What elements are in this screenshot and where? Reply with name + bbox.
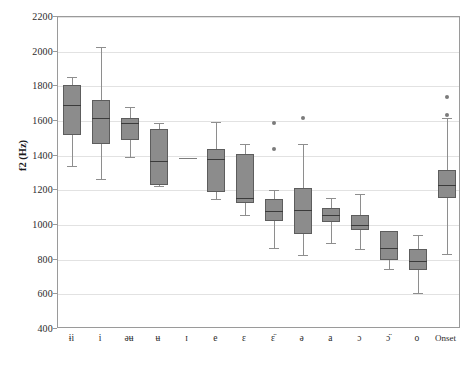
whisker-lower: [72, 135, 73, 166]
median-line: [63, 105, 81, 106]
whisker-cap-lower: [211, 199, 221, 200]
box-iqr: [236, 154, 254, 203]
x-tick-label: ʉ: [155, 333, 160, 343]
whisker-cap-upper: [355, 194, 365, 195]
whisker-upper: [130, 107, 131, 117]
box-iqr: [63, 85, 81, 134]
whisker-cap-lower: [125, 157, 135, 158]
plot-area: [57, 16, 460, 328]
x-tick-label: əʉ: [124, 333, 133, 343]
whisker-upper: [274, 190, 275, 199]
x-tick-label: ɔ: [357, 333, 361, 343]
boxplot-figure: f2 (Hz) 22002000180016001400120010008006…: [0, 0, 467, 365]
whisker-upper: [245, 144, 246, 154]
whisker-cap-upper: [442, 118, 452, 119]
whisker-cap-lower: [355, 249, 365, 250]
whisker-lower: [274, 221, 275, 249]
whisker-lower: [101, 144, 102, 180]
whisker-upper: [72, 77, 73, 86]
outlier-point: [301, 116, 305, 120]
whisker-upper: [360, 194, 361, 216]
whisker-cap-lower: [442, 254, 452, 255]
box-iqr: [92, 100, 110, 143]
outlier-point: [445, 113, 449, 117]
median-line: [294, 210, 312, 211]
whisker-lower: [418, 270, 419, 293]
whisker-cap-upper: [67, 77, 77, 78]
whisker-lower: [130, 140, 131, 156]
outlier-point: [272, 147, 276, 151]
median-line: [92, 118, 110, 119]
x-tick-label: ɪ: [185, 333, 188, 343]
box-iqr: [207, 149, 225, 192]
y-tick-mark: [53, 328, 57, 329]
x-axis-tick-labels: ɨiiəʉʉɪeɛɛ̈əaɔɔ̈oOnset: [57, 333, 460, 353]
whisker-lower: [360, 230, 361, 249]
x-tick-label: e: [213, 333, 217, 343]
box-iqr: [150, 129, 168, 185]
x-tick-label: i: [99, 333, 102, 343]
median-line: [207, 159, 225, 160]
x-tick-label: ɨi: [69, 333, 74, 343]
x-tick-label: a: [328, 333, 332, 343]
y-tick-label: 800: [19, 253, 53, 264]
box-series: [58, 17, 459, 327]
whisker-cap-upper: [413, 235, 423, 236]
whisker-cap-upper: [326, 198, 336, 199]
whisker-cap-lower: [413, 293, 423, 294]
x-tick-label: ɛ: [242, 333, 246, 343]
x-tick-label: ɛ̈: [271, 333, 275, 343]
whisker-lower: [303, 234, 304, 256]
box-iqr: [121, 118, 139, 141]
median-line: [265, 211, 283, 212]
whisker-cap-lower: [96, 179, 106, 180]
median-line: [380, 248, 398, 249]
y-axis-tick-labels: 2200200018001600140012001000800600400: [11, 16, 53, 328]
median-line: [409, 261, 427, 262]
whisker-cap-upper: [240, 144, 250, 145]
whisker-upper: [303, 144, 304, 187]
whisker-cap-lower: [67, 166, 77, 167]
whisker-cap-upper: [269, 190, 279, 191]
whisker-cap-lower: [154, 186, 164, 187]
x-tick-label: Onset: [435, 333, 456, 343]
whisker-cap-lower: [384, 269, 394, 270]
box-iqr: [409, 249, 427, 270]
median-line: [121, 123, 139, 124]
whisker-lower: [447, 198, 448, 253]
whisker-upper: [216, 122, 217, 149]
whisker-cap-upper: [125, 107, 135, 108]
median-line: [438, 185, 456, 186]
x-tick-label: o: [414, 333, 419, 343]
whisker-upper: [418, 235, 419, 249]
whisker-cap-lower: [326, 243, 336, 244]
y-tick-label: 1400: [19, 149, 53, 160]
y-tick-label: 1000: [19, 219, 53, 230]
whisker-upper: [101, 47, 102, 100]
whisker-lower: [245, 203, 246, 214]
whisker-cap-lower: [269, 248, 279, 249]
y-tick-label: 1600: [19, 115, 53, 126]
y-tick-label: 2200: [19, 11, 53, 22]
median-line: [150, 161, 168, 162]
box-iqr: [380, 231, 398, 260]
whisker-lower: [389, 260, 390, 270]
x-tick-label: ə: [300, 333, 304, 343]
outlier-point: [445, 95, 449, 99]
y-tick-label: 600: [19, 288, 53, 299]
whisker-upper: [331, 198, 332, 208]
box-iqr: [265, 199, 283, 221]
median-line: [351, 225, 369, 226]
y-tick-label: 1800: [19, 80, 53, 91]
whisker-cap-upper: [96, 47, 106, 48]
whisker-cap-upper: [298, 144, 308, 145]
median-line: [322, 215, 340, 216]
whisker-cap-lower: [240, 215, 250, 216]
whisker-lower: [331, 222, 332, 244]
median-line: [236, 198, 254, 199]
whisker-cap-upper: [211, 122, 221, 123]
x-tick-label: ɔ̈: [386, 333, 390, 343]
whisker-lower: [216, 192, 217, 199]
whisker-upper: [447, 118, 448, 171]
whisker-cap-upper: [154, 123, 164, 124]
